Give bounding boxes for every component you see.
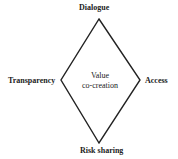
vertex-label-right: Access [145, 77, 168, 85]
center-label: Value co-creation [74, 71, 126, 91]
center-label-line-1: Value [74, 71, 126, 81]
vertex-label-bottom: Risk sharing [80, 147, 123, 155]
center-label-line-2: co-creation [74, 81, 126, 91]
vertex-label-top: Dialogue [79, 4, 109, 12]
vertex-label-left: Transparency [8, 77, 55, 85]
